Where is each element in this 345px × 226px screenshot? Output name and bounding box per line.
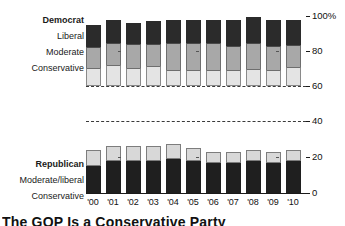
y-axis-label-20: 20 <box>312 152 323 162</box>
segment-conservative <box>146 161 161 193</box>
x-axis-label-06: '06 <box>202 198 224 207</box>
segment-moderate <box>286 45 301 67</box>
segment-liberal <box>186 20 201 43</box>
segment-moderate-liberal <box>246 150 261 161</box>
segment-conservative <box>106 65 121 86</box>
legend-label-dem-moderate: Moderate <box>0 48 84 57</box>
x-axis-label-04: '04 <box>162 198 184 207</box>
x-axis-label-05: '05 <box>182 198 204 207</box>
bar-republican-04 <box>166 144 181 193</box>
segment-conservative <box>206 163 221 193</box>
segment-liberal <box>246 17 261 43</box>
segment-moderate-liberal <box>106 146 121 161</box>
segment-liberal <box>206 20 221 43</box>
segment-conservative <box>106 161 121 193</box>
segment-moderate-liberal <box>126 146 141 161</box>
y-axis-label-40: 40 <box>312 116 323 126</box>
segment-conservative <box>246 69 261 86</box>
segment-conservative <box>286 161 301 193</box>
segment-moderate <box>86 47 101 68</box>
segment-moderate <box>206 43 221 70</box>
bar-republican-03 <box>146 146 161 193</box>
segment-conservative <box>286 67 301 86</box>
x-axis-label-10: '10 <box>282 198 304 207</box>
bar-democrat-10 <box>286 20 301 86</box>
chart-caption: The GOP Is a Conservative Party <box>2 214 226 226</box>
bar-democrat-01 <box>106 20 121 86</box>
segment-moderate-liberal <box>166 144 181 159</box>
bar-republican-05 <box>186 148 201 193</box>
y-tick-80 <box>306 51 310 52</box>
bar-democrat-08 <box>246 17 261 86</box>
segment-moderate <box>186 43 201 70</box>
y-tick-100 <box>306 16 310 17</box>
legend-label-dem-conservative: Conservative <box>0 64 84 73</box>
segment-moderate <box>246 43 261 69</box>
legend-label-rep-moderate-liberal: Moderate/liberal <box>0 176 84 185</box>
x-axis-label-07: '07 <box>222 198 244 207</box>
segment-moderate-liberal <box>146 146 161 161</box>
bar-democrat-00 <box>86 25 101 86</box>
bar-republican-01 <box>106 146 121 193</box>
segment-conservative <box>266 70 281 86</box>
segment-liberal <box>286 20 301 45</box>
bar-democrat-03 <box>146 21 161 86</box>
segment-conservative <box>186 161 201 193</box>
segment-liberal <box>166 20 181 43</box>
y-axis-label-100: 100% <box>312 11 336 21</box>
bar-republican-08 <box>246 150 261 193</box>
bar-republican-02 <box>126 146 141 193</box>
bar-democrat-07 <box>226 20 241 86</box>
segment-conservative <box>86 68 101 86</box>
segment-moderate <box>166 43 181 70</box>
segment-conservative <box>86 166 101 193</box>
segment-liberal <box>106 20 121 43</box>
bar-republican-07 <box>226 152 241 193</box>
bar-democrat-06 <box>206 20 221 86</box>
leader-tick-moderate <box>80 52 83 53</box>
segment-liberal <box>146 21 161 44</box>
segment-conservative <box>166 159 181 193</box>
inner-tick-80-a <box>118 51 121 52</box>
x-axis-line <box>86 193 306 194</box>
y-tick-40 <box>306 121 310 122</box>
y-axis-label-60: 60 <box>312 81 323 91</box>
leader-tick-conservative <box>80 68 83 69</box>
inner-tick-80-b <box>196 51 199 52</box>
y-axis-label-80: 80 <box>312 46 323 56</box>
segment-conservative <box>226 70 241 86</box>
legend-label-rep-conservative: Conservative <box>0 192 84 201</box>
bar-republican-10 <box>286 150 301 193</box>
bar-democrat-02 <box>126 23 141 86</box>
gridline-40 <box>86 121 306 122</box>
segment-conservative <box>126 161 141 193</box>
segment-liberal <box>266 20 281 46</box>
legend-label-republican: Republican <box>0 160 84 169</box>
bar-republican-09 <box>266 152 281 193</box>
bar-democrat-05 <box>186 20 201 86</box>
segment-moderate <box>266 46 281 70</box>
segment-moderate <box>106 43 121 65</box>
segment-moderate-liberal <box>206 152 221 163</box>
x-axis-label-01: '01 <box>102 198 124 207</box>
segment-conservative <box>206 70 221 86</box>
chart-canvas: Democrat Liberal Moderate Conservative R… <box>0 0 345 226</box>
segment-moderate <box>226 46 241 70</box>
inner-tick-20-a <box>118 157 121 158</box>
gridline-60 <box>86 86 306 87</box>
segment-moderate-liberal <box>186 148 201 161</box>
segment-conservative <box>186 70 201 86</box>
bar-democrat-04 <box>166 20 181 86</box>
bar-republican-06 <box>206 152 221 193</box>
x-axis-label-00: '00 <box>82 198 104 207</box>
segment-conservative <box>226 163 241 193</box>
legend-label-dem-liberal: Liberal <box>0 32 84 41</box>
x-axis-label-08: '08 <box>242 198 264 207</box>
segment-liberal <box>126 23 141 44</box>
segment-liberal <box>86 25 101 47</box>
segment-conservative <box>246 161 261 193</box>
segment-moderate-liberal <box>226 152 241 163</box>
bar-democrat-09 <box>266 20 281 86</box>
segment-conservative <box>266 163 281 193</box>
y-tick-0 <box>306 193 310 194</box>
